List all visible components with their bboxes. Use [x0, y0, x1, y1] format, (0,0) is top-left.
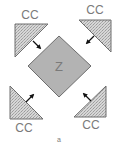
- label-top-left: CC: [21, 8, 39, 22]
- diagram: Z CC CC CC CC a: [0, 0, 117, 145]
- label-bottom-left: CC: [15, 121, 33, 135]
- triangle-top-right: [79, 20, 111, 52]
- label-bottom-right: CC: [82, 118, 100, 132]
- arrow-top-left: [33, 41, 40, 48]
- arrow-top-right: [87, 36, 94, 43]
- arrow-bottom-left: [26, 95, 33, 102]
- arrow-bottom-right: [84, 94, 91, 101]
- center-label: Z: [55, 59, 63, 74]
- triangle-bottom-right: [74, 86, 106, 117]
- label-top-right: CC: [86, 3, 104, 17]
- triangle-bottom-left: [10, 86, 43, 119]
- figure-caption: a: [57, 136, 61, 143]
